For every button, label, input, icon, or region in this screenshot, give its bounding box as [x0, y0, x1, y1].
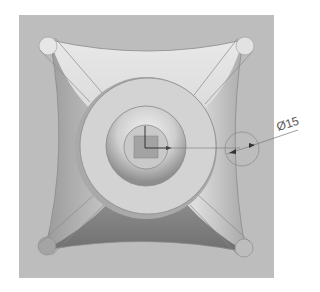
cad-viewport[interactable]: Ø15 — [0, 0, 320, 292]
dimension-label: Ø15 — [275, 114, 301, 134]
